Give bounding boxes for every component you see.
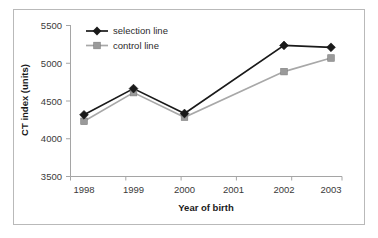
y-axis-title: CT index (units): [19, 64, 30, 136]
control-marker-2002: [281, 68, 288, 75]
legend-marker-square-icon: [94, 42, 101, 49]
chart-legend: selection line control line: [86, 25, 168, 51]
legend-label-selection: selection line: [113, 25, 168, 36]
control-line-path: [84, 58, 331, 121]
x-tick-label-2003: 2003: [320, 184, 341, 195]
x-axis-title: Year of birth: [178, 202, 234, 213]
line-chart: 5500 5000 4500 4000 3500 1998 1999 2000 …: [0, 0, 378, 238]
x-tick-label-2000: 2000: [174, 184, 195, 195]
y-tick-label-3500: 3500: [41, 171, 62, 182]
y-tick-label-5500: 5500: [41, 20, 62, 31]
y-tick-marks: [66, 26, 71, 177]
legend-marker-diamond-icon: [93, 27, 102, 36]
control-line-markers: [81, 55, 335, 125]
x-tick-label-2002: 2002: [273, 184, 294, 195]
chart-figure: 5500 5000 4500 4000 3500 1998 1999 2000 …: [0, 0, 378, 238]
y-tick-label-4500: 4500: [41, 96, 62, 107]
y-tick-label-5000: 5000: [41, 58, 62, 69]
legend-label-control: control line: [113, 40, 159, 51]
y-tick-label-4000: 4000: [41, 133, 62, 144]
x-tick-label-1999: 1999: [123, 184, 144, 195]
selection-line-path: [84, 45, 331, 114]
x-tick-label-1998: 1998: [73, 184, 94, 195]
x-tick-label-2001: 2001: [223, 184, 244, 195]
x-tick-marks: [71, 177, 343, 181]
control-marker-2003: [328, 55, 335, 62]
selection-marker-2003: [327, 43, 336, 52]
